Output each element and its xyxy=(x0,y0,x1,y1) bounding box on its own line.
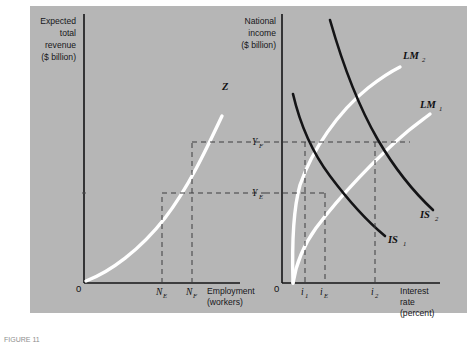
right-ytick-ye-label: Y xyxy=(252,188,259,198)
right-y-axis-label-line-1: National xyxy=(244,16,276,26)
is2-curve-label-sub: 2 xyxy=(435,215,439,222)
right-x-axis-label-line-2: rate xyxy=(400,297,415,307)
left-xtick-nf: N F xyxy=(185,287,198,299)
lm2-curve-label-group: LM 2 xyxy=(402,50,426,63)
left-y-axis-label-line-2: total xyxy=(60,28,76,38)
right-y-axis-label-line-2: income xyxy=(248,28,276,38)
right-xtick-i1-label: i xyxy=(301,287,304,297)
economics-diagram: Expected total revenue ($ billion) 0 Z N… xyxy=(0,0,475,348)
left-y-axis-label-line-4: ($ billion) xyxy=(41,52,76,62)
left-xtick-nf-label: N xyxy=(185,287,193,297)
left-x-axis-label-line-1: Employment xyxy=(207,286,255,296)
right-ytick-yf-sub: F xyxy=(258,142,264,149)
figure-root: Expected total revenue ($ billion) 0 Z N… xyxy=(0,0,475,348)
z-curve xyxy=(86,116,222,281)
right-origin-label: 0 xyxy=(274,283,279,294)
left-y-axis-label-line-1: Expected xyxy=(40,16,76,26)
lm1-curve xyxy=(293,114,430,283)
right-xtick-ie-sub: E xyxy=(323,292,328,299)
z-curve-label: Z xyxy=(221,81,229,92)
lm2-curve-label-sub: 2 xyxy=(422,56,426,63)
is1-curve-label: IS xyxy=(387,234,398,245)
right-ytick-yf: Y F xyxy=(252,137,264,149)
right-xtick-i1: i 1 xyxy=(301,287,308,299)
right-xtick-i2: i 2 xyxy=(371,287,379,299)
right-xtick-i1-sub: 1 xyxy=(305,292,308,299)
left-panel-group: Expected total revenue ($ billion) 0 Z N… xyxy=(40,14,265,307)
right-xtick-ie: i E xyxy=(320,287,328,299)
right-xtick-ie-label: i xyxy=(320,287,323,297)
left-xtick-ne-sub: E xyxy=(162,292,167,299)
right-xtick-i2-sub: 2 xyxy=(375,292,379,299)
left-y-axis-label-line-3: revenue xyxy=(45,40,76,50)
is2-curve xyxy=(330,20,433,210)
is1-curve-label-sub: 1 xyxy=(403,240,406,247)
right-x-axis-label-line-1: Interest xyxy=(400,286,429,296)
left-xtick-nf-sub: F xyxy=(192,292,198,299)
right-xtick-i2-label: i xyxy=(371,287,374,297)
lm2-curve-label: LM xyxy=(402,50,419,61)
left-xtick-ne: N E xyxy=(155,287,167,299)
right-panel-group: National income ($ billion) Y F Y E 0 i … xyxy=(241,14,442,318)
is1-curve-label-group: IS 1 xyxy=(387,234,406,247)
right-ytick-ye: Y E xyxy=(252,188,263,200)
is2-curve-label-group: IS 2 xyxy=(419,209,439,222)
lm1-curve-label: LM xyxy=(419,99,436,110)
left-origin-label: 0 xyxy=(76,283,81,294)
lm1-curve-label-sub: 1 xyxy=(439,105,442,112)
lm2-curve xyxy=(293,67,400,283)
right-ytick-ye-sub: E xyxy=(258,193,263,200)
right-x-axis-label-line-3: (percent) xyxy=(400,308,435,318)
figure-caption: FIGURE 11 xyxy=(4,336,40,343)
left-x-axis-label-line-2: (workers) xyxy=(207,297,243,307)
lm1-curve-label-group: LM 1 xyxy=(419,99,442,112)
right-y-axis-label-line-3: ($ billion) xyxy=(241,40,276,50)
is2-curve-label: IS xyxy=(419,209,430,220)
left-xtick-ne-label: N xyxy=(155,287,163,297)
